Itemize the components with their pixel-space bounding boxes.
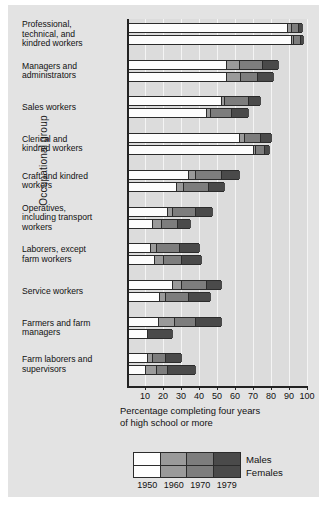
bar-segment-1979 [148,330,173,338]
bar-group [127,203,307,240]
category-label: Managers andadministrators [22,62,124,81]
x-axis-tick [307,386,308,390]
category-label: Service workers [22,287,124,296]
bar-segment-1970 [175,318,197,326]
bar-segment-1960 [153,220,162,228]
category-label-line: workers [22,181,124,190]
bar-segment-1979 [258,73,274,81]
bar-segment-1979 [222,171,240,179]
legend-swatch-1970 [187,465,214,477]
bar-segment-1950 [128,220,153,228]
x-axis-tick [199,386,200,390]
bar-group [127,92,307,129]
bar-males [127,280,221,290]
bar-segment-1950 [128,73,227,81]
bar-females [127,292,210,302]
category-label: Sales workers [22,103,124,112]
bar-segment-1970 [292,24,299,32]
bar-segment-1970 [245,134,261,142]
bar-segment-1950 [128,354,148,362]
category-label-line: farm workers [22,255,124,264]
bar-segment-1979 [196,318,221,326]
bar-segment-1950 [128,256,155,264]
bar-segment-1979 [299,24,303,32]
bar-segment-1979 [178,220,191,228]
bar-segment-1950 [128,97,222,105]
bar-segment-1979 [232,109,248,117]
bar-segment-1950 [128,330,148,338]
x-axis-tick [235,386,236,390]
bar-group [127,276,307,313]
legend-series-label: Females [246,467,283,478]
bar-segment-1970 [173,208,196,216]
bar-segment-1950 [128,109,207,117]
legend-series-label: Males [246,454,272,465]
bar-group [127,313,307,350]
legend-swatch-1979 [214,453,241,465]
bar-segment-1950 [128,318,159,326]
category-label-line: Service workers [22,287,124,296]
bar-segment-1960 [189,171,196,179]
bar-segment-1970 [225,97,248,105]
x-tick-label: 100 [296,391,318,401]
bar-segment-1970 [153,354,166,362]
bar-segment-1950 [128,281,173,289]
bar-males [127,133,271,143]
legend-year-label: 1950 [134,480,160,490]
category-label: Laborers, exceptfarm workers [22,245,124,264]
bar-segment-1979 [180,244,200,252]
bar-segment-1970 [184,183,209,191]
plot-area [127,19,307,386]
legend-swatch-1950 [134,465,161,477]
x-axis-title: Percentage completing four years of high… [120,405,315,428]
bar-group [127,129,307,166]
x-axis-tick [217,386,218,390]
x-axis-tick [271,386,272,390]
bar-females [127,329,172,339]
x-axis-tick-labels: 102030405060708090100 [120,391,320,403]
x-axis-tick [163,386,164,390]
bar-segment-1960 [177,183,184,191]
bar-segment-1950 [128,61,227,69]
legend-swatch-1970 [187,453,214,465]
bar-segment-1970 [157,244,180,252]
legend-year-label: 1970 [187,480,213,490]
category-label-line: kindred workers [22,144,124,153]
x-axis-title-line1: Percentage completing four years [120,405,315,417]
bar-segment-1950 [128,24,288,32]
bar-segment-1960 [227,73,241,81]
bar-group [127,239,307,276]
category-label: Clerical andkindred workers [22,135,124,154]
bar-segment-1970 [182,281,207,289]
bar-segment-1950 [128,171,189,179]
legend-row-females [134,465,240,477]
bar-segment-1979 [189,293,211,301]
category-label-line: workers [22,223,124,232]
bar-females [127,219,190,229]
bar-segment-1979 [263,61,279,69]
bar-segment-1950 [128,146,254,154]
bar-segment-1960 [146,366,157,374]
bar-segment-1970 [196,171,221,179]
legend-year-label: 1979 [214,480,240,490]
legend-swatch-box [133,452,241,478]
legend-swatch-1950 [134,453,161,465]
bar-segment-1950 [128,36,292,44]
bar-group [127,56,307,93]
bar-females [127,365,195,375]
bar-segment-1979 [207,281,221,289]
category-label: Operatives,including transportworkers [22,204,124,232]
bar-females [127,72,273,82]
bar-segment-1970 [256,146,265,154]
bar-females [127,255,201,265]
bar-segment-1970 [164,256,182,264]
bar-females [127,35,303,45]
bar-males [127,60,278,70]
legend-swatch-1960 [161,453,188,465]
bar-males [127,353,181,363]
chart-panel: Occupational group Professional,technica… [8,5,319,497]
x-axis-tick [145,386,146,390]
bar-males [127,96,260,106]
bar-group [127,166,307,203]
category-label: Craft and kindredworkers [22,172,124,191]
